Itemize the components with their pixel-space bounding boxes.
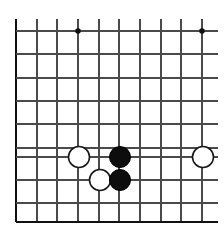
stones-group	[69, 147, 214, 191]
go-board-canvas	[0, 0, 224, 235]
white-stone-right-edge	[193, 147, 214, 168]
black-stone-lower	[110, 170, 131, 191]
go-board-diagram	[0, 0, 224, 235]
grid-vertical-lines	[16, 19, 202, 222]
black-stone-upper	[110, 147, 131, 168]
white-stone-left	[69, 147, 90, 168]
star-point-right	[199, 28, 205, 34]
grid-horizontal-lines	[16, 31, 218, 222]
star-point-left	[75, 28, 81, 34]
white-stone-lower	[90, 170, 111, 191]
